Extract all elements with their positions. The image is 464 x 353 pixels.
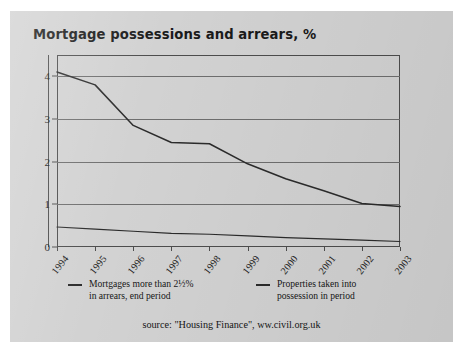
plot-area: 01234 1994199519961997199819992000200120…	[57, 55, 400, 247]
x-tick-mark	[286, 247, 287, 251]
source-note: source: "Housing Finance", ww.civil.org.…	[10, 319, 453, 330]
line-swatch-icon	[68, 284, 82, 286]
x-tick-mark	[95, 247, 96, 251]
x-tick-mark	[209, 247, 210, 251]
series-lines	[57, 55, 400, 247]
legend: Mortgages more than 2½% in arrears, end …	[68, 278, 418, 303]
x-tick-label: 1997	[164, 253, 185, 276]
x-tick-label: 1994	[49, 253, 70, 276]
x-tick-label: 2001	[316, 253, 337, 276]
x-tick-mark	[57, 247, 58, 251]
y-axis-line	[48, 55, 49, 247]
legend-item-possessions: Properties taken into possession in peri…	[256, 278, 418, 303]
y-tick-label: 0	[45, 242, 51, 253]
x-tick-label: 1998	[202, 253, 223, 276]
x-tick-mark	[133, 247, 134, 251]
figure-panel: Mortgage possessions and arrears, % 0123…	[10, 11, 453, 342]
x-tick-label: 2003	[392, 253, 413, 276]
y-tick-label: 4	[45, 71, 51, 82]
x-tick-mark	[248, 247, 249, 251]
x-tick-mark	[171, 247, 172, 251]
x-tick-mark	[362, 247, 363, 251]
y-tick-label: 1	[45, 199, 51, 210]
x-tick-mark	[324, 247, 325, 251]
legend-line-1: Properties taken into	[277, 278, 356, 289]
page-title: Mortgage possessions and arrears, %	[33, 27, 316, 42]
legend-line-2: possession in period	[277, 290, 355, 301]
x-tick-mark	[400, 247, 401, 251]
legend-line-2: in arrears, end period	[89, 290, 171, 301]
x-tick-label: 2002	[354, 253, 375, 276]
x-tick-label: 1999	[240, 253, 261, 276]
y-tick-label: 3	[45, 114, 51, 125]
arrears-line	[57, 72, 400, 206]
legend-line-1: Mortgages more than 2½%	[89, 278, 193, 289]
line-swatch-icon	[256, 284, 270, 286]
legend-item-label: Mortgages more than 2½% in arrears, end …	[89, 278, 193, 303]
legend-item-label: Properties taken into possession in peri…	[277, 278, 356, 303]
x-tick-label: 1996	[125, 253, 146, 276]
possessions-line	[57, 227, 400, 242]
x-tick-label: 1995	[87, 253, 108, 276]
legend-item-arrears: Mortgages more than 2½% in arrears, end …	[68, 278, 230, 303]
y-tick-label: 2	[45, 156, 51, 167]
x-tick-label: 2000	[278, 253, 299, 276]
